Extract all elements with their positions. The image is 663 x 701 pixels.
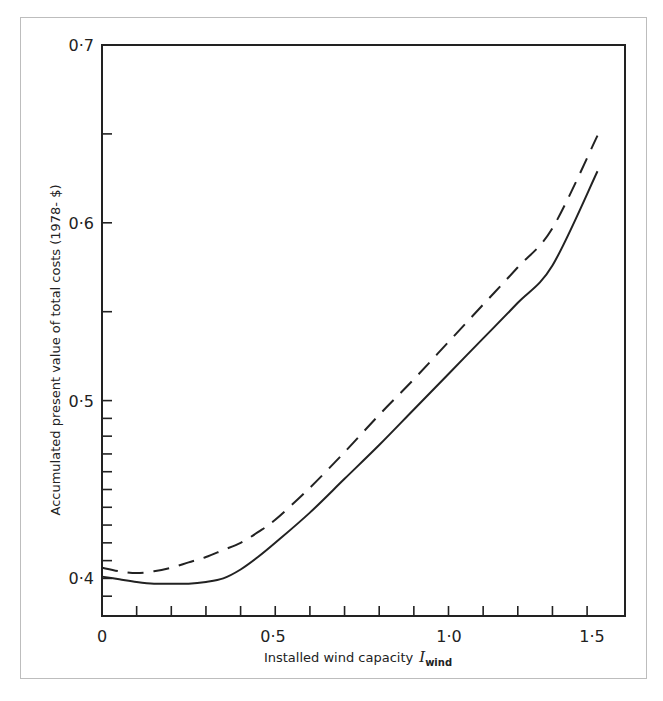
line-chart: 00·51·01·50·40·50·60·7 Accumulated prese… xyxy=(0,0,663,701)
data-series xyxy=(102,136,597,584)
x-tick-label: 0·5 xyxy=(260,627,285,646)
y-tick-label: 0·6 xyxy=(69,214,94,233)
plot-border xyxy=(102,45,625,616)
solid-series-line xyxy=(102,171,597,584)
x-tick-label: 1·0 xyxy=(436,627,461,646)
tick-labels: 00·51·01·50·40·50·60·7 xyxy=(69,36,605,646)
dashed-series-line xyxy=(102,136,597,573)
y-tick-label: 0·4 xyxy=(69,569,94,588)
x-tick-label: 1·5 xyxy=(579,627,604,646)
x-tick-label: 0 xyxy=(97,627,107,646)
axis-ticks xyxy=(102,134,587,616)
y-axis-title: Accumulated present value of total costs… xyxy=(48,184,63,515)
x-axis-title: Installed wind capacityIwind xyxy=(264,648,452,668)
plot-axes xyxy=(102,45,625,616)
y-tick-label: 0·7 xyxy=(69,36,94,55)
y-tick-label: 0·5 xyxy=(69,392,94,411)
